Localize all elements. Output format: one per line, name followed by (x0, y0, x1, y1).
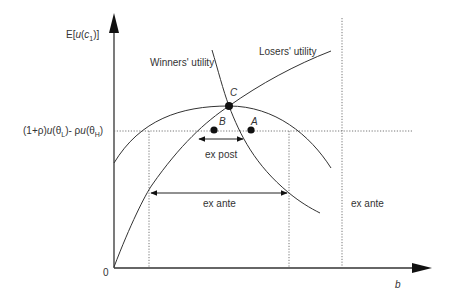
point-b-label: B (219, 116, 226, 127)
winners-utility-curve (212, 50, 320, 213)
ex-post-label: ex post (205, 149, 237, 160)
ex-ante-inner-label: ex ante (203, 198, 236, 209)
x-axis-arrow-icon (412, 263, 432, 273)
x-axis-label: b (395, 279, 401, 290)
y-axis-label: E[u(c1)] (66, 29, 100, 42)
y-axis-arrow-icon (109, 13, 119, 33)
origin-label: 0 (103, 267, 109, 278)
y-axis (109, 13, 119, 268)
x-axis (114, 263, 432, 273)
point-c-label: C (230, 87, 238, 98)
point-a: A (247, 116, 258, 134)
ex-ante-outer-label: ex ante (351, 198, 384, 209)
losers-utility-label: Losers' utility (259, 46, 317, 57)
utility-diagram: E[u(c1)] 0 b (1+ρ)u(θL)- ρu(θH) Winners'… (0, 0, 454, 301)
threshold-label: (1+ρ)u(θL)- ρu(θH) (23, 125, 103, 138)
point-a-label: A (250, 116, 258, 127)
winners-utility-label: Winners' utility (150, 57, 214, 68)
